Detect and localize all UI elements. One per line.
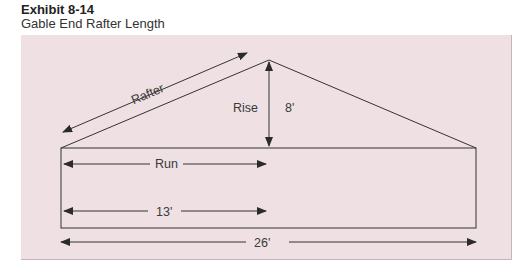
gable-diagram: Rafter Rise 8' Run 13' 26'	[0, 0, 530, 274]
rise-label: Rise	[233, 101, 258, 115]
run-value: 13'	[156, 205, 172, 219]
run-label: Run	[155, 157, 178, 171]
span-value: 26'	[254, 236, 270, 250]
rafter-label: Rafter	[129, 81, 166, 107]
wall-outline	[61, 148, 476, 228]
rise-value: 8'	[285, 101, 294, 115]
